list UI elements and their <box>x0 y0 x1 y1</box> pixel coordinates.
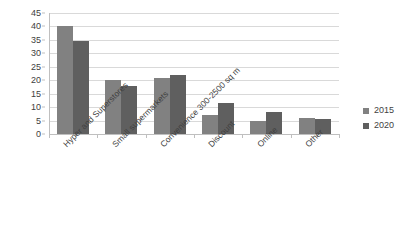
x-axis-category-label: Discount <box>206 119 236 149</box>
legend-swatch-icon-2020 <box>363 123 369 129</box>
x-axis-category-label: Other <box>303 127 325 149</box>
x-axis-category-label: Online <box>255 125 279 149</box>
legend-label-2020: 2020 <box>374 121 394 130</box>
bar-chart: 051015202530354045 Hyper and Superstores… <box>0 0 414 236</box>
legend-swatch-icon-2015 <box>363 108 369 114</box>
legend-entry-2015[interactable]: 2015 <box>363 103 394 118</box>
x-axis-category-label: Convenience 300-2500 sq m <box>158 65 242 149</box>
legend-label-2015: 2015 <box>374 106 394 115</box>
chart-legend: 2015 2020 <box>363 103 394 133</box>
legend-entry-2020[interactable]: 2020 <box>363 118 394 133</box>
x-axis-category-labels: Hyper and SuperstoresSmall supermarketsC… <box>0 0 414 236</box>
